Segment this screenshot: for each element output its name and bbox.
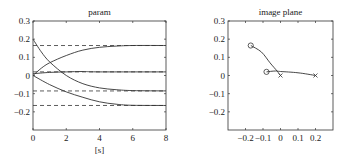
- y-tick-label: 0.2: [214, 34, 225, 44]
- image-plane-plot: image plane 0.30.20.10−0.1−0.2 −0.2−0.10…: [209, 7, 333, 143]
- y-tick-label: 0.2: [19, 34, 30, 44]
- param-y-ticks: 0.30.20.10−0.1−0.2: [14, 16, 166, 117]
- x-tick-label: 0.1: [292, 133, 303, 143]
- param-curve: [33, 72, 166, 74]
- y-tick-label: −0.1: [14, 89, 30, 99]
- x-tick-label: 6: [131, 133, 136, 143]
- start-circle-marker: [248, 43, 253, 48]
- param-curve: [33, 45, 166, 75]
- figure: param 0.30.20.10−0.1−0.2 02468 [s] image…: [0, 0, 345, 160]
- trajectory-curve: [267, 71, 316, 76]
- y-tick-label: −0.2: [209, 107, 225, 117]
- image-plane-x-ticks: −0.2−0.100.10.2: [237, 21, 321, 143]
- param-x-ticks: 02468: [31, 21, 169, 143]
- target-lines: [33, 46, 166, 106]
- x-tick-label: 2: [64, 133, 69, 143]
- x-tick-label: 4: [97, 133, 102, 143]
- x-tick-label: 8: [164, 133, 169, 143]
- param-title: param: [88, 7, 111, 17]
- image-plane-markers: [248, 43, 317, 78]
- y-tick-label: 0.1: [19, 52, 30, 62]
- x-tick-label: −0.1: [255, 133, 271, 143]
- y-tick-label: 0.1: [214, 52, 225, 62]
- x-tick-label: 0: [278, 133, 283, 143]
- param-x-label: [s]: [95, 145, 105, 155]
- y-tick-label: 0: [221, 71, 226, 81]
- x-tick-label: −0.2: [237, 133, 253, 143]
- y-tick-label: 0: [26, 71, 31, 81]
- image-plane-title: image plane: [259, 7, 303, 17]
- x-tick-label: 0.2: [310, 133, 321, 143]
- param-plot: param 0.30.20.10−0.1−0.2 02468 [s]: [14, 7, 169, 155]
- image-plane-trajectories: [251, 46, 316, 76]
- y-tick-label: 0.3: [214, 16, 226, 26]
- end-x-marker: [279, 74, 283, 78]
- param-axes-box: [33, 21, 166, 130]
- y-tick-label: −0.2: [14, 107, 30, 117]
- x-tick-label: 0: [31, 133, 36, 143]
- y-tick-label: −0.1: [209, 89, 225, 99]
- y-tick-label: 0.3: [19, 16, 31, 26]
- image-plane-y-ticks: 0.30.20.10−0.1−0.2: [209, 16, 333, 117]
- param-curves: [33, 39, 166, 105]
